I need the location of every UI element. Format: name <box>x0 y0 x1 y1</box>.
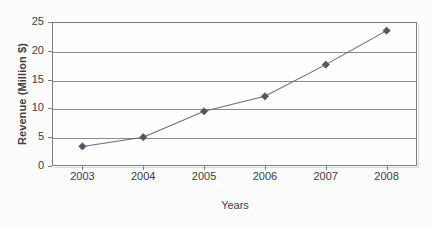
x-tick-label-2008: 2008 <box>357 170 417 183</box>
y-tick-label-10: 10 <box>0 102 44 113</box>
data-point-2008 <box>383 27 390 34</box>
data-series-layer <box>52 22 417 166</box>
series-markers <box>79 27 390 150</box>
y-tick-label-25: 25 <box>0 16 44 27</box>
y-tick-label-text: 25 <box>0 16 44 27</box>
y-tick-label-text: 10 <box>0 102 44 113</box>
x-axis-title: Years <box>52 198 418 212</box>
x-axis-tick-labels: 200320042005200620072008 <box>52 170 418 186</box>
data-point-2004 <box>140 134 147 141</box>
y-axis-tick-labels: 0510152025 <box>0 0 44 230</box>
x-tick-label-2005: 2005 <box>174 170 234 183</box>
y-tick-label-20: 20 <box>0 45 44 56</box>
y-tick-label-0: 0 <box>0 160 44 171</box>
y-tick-mark-0 <box>48 166 52 167</box>
series-line <box>82 31 386 147</box>
y-tick-label-text: 0 <box>0 160 44 171</box>
x-tick-label-2003: 2003 <box>52 170 112 183</box>
y-tick-label-5: 5 <box>0 131 44 142</box>
y-tick-label-15: 15 <box>0 74 44 85</box>
data-point-2005 <box>200 108 207 115</box>
data-point-2003 <box>79 143 86 150</box>
revenue-line-chart: Revenue (Million $) 0510152025 200320042… <box>0 0 433 230</box>
y-tick-label-text: 20 <box>0 45 44 56</box>
y-tick-label-text: 5 <box>0 131 44 142</box>
x-tick-label-2004: 2004 <box>113 170 173 183</box>
x-tick-label-2006: 2006 <box>235 170 295 183</box>
data-point-2006 <box>261 93 268 100</box>
x-tick-label-2007: 2007 <box>296 170 356 183</box>
y-tick-label-text: 15 <box>0 74 44 85</box>
data-point-2007 <box>322 61 329 68</box>
